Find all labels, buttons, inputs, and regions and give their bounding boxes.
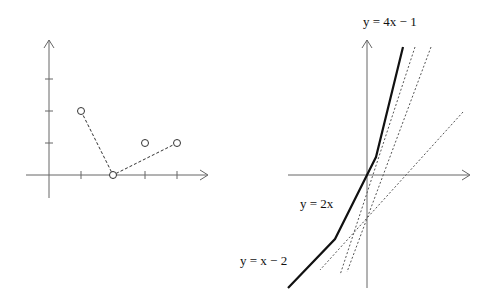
data-points bbox=[78, 108, 181, 179]
dashed-path bbox=[81, 111, 177, 175]
point-marker bbox=[110, 172, 117, 179]
right-y-axis bbox=[362, 40, 372, 288]
point-marker bbox=[142, 140, 149, 147]
point-marker bbox=[174, 140, 181, 147]
left-y-axis bbox=[44, 40, 54, 198]
label-4x-minus-1: y = 4x − 1 bbox=[363, 14, 417, 30]
right-x-axis bbox=[288, 170, 470, 180]
right-plot bbox=[288, 40, 470, 288]
tangent-lines bbox=[320, 47, 463, 275]
point-marker bbox=[78, 108, 85, 115]
label-2x: y = 2x bbox=[300, 196, 333, 212]
left-plot bbox=[26, 40, 208, 198]
label-x-minus-2: y = x − 2 bbox=[240, 253, 287, 269]
left-ticks bbox=[45, 79, 177, 179]
